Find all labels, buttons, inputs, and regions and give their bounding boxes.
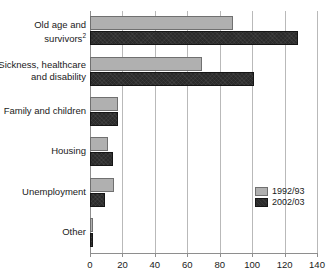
- gridline-120: [285, 11, 286, 253]
- bar-1992-93-0: [90, 16, 233, 30]
- bar-2002-03-4: [90, 193, 105, 207]
- legend-swatch-icon-2002-03: [255, 198, 268, 207]
- tickmark-0: [90, 253, 91, 257]
- legend: 1992/93 2002/03: [255, 186, 305, 208]
- tickmark-60: [187, 253, 188, 257]
- x-tick-label-120: 120: [270, 259, 300, 270]
- category-label-0: Old age and survivors2: [0, 19, 86, 45]
- bar-2002-03-5: [90, 233, 93, 247]
- gridline-100: [252, 11, 253, 253]
- gridline-20: [122, 11, 123, 253]
- legend-item-2002-03: 2002/03: [255, 197, 305, 208]
- gridline-140: [317, 11, 318, 253]
- tickmark-100: [252, 253, 253, 257]
- x-tick-label-20: 20: [107, 259, 137, 270]
- x-tick-label-0: 0: [75, 259, 105, 270]
- tickmark-140: [317, 253, 318, 257]
- category-label-5: Other: [0, 226, 86, 238]
- legend-swatch-icon-1992-93: [255, 187, 268, 196]
- bar-1992-93-5: [90, 218, 93, 232]
- x-tick-label-140: 140: [302, 259, 329, 270]
- category-label-3: Housing: [0, 145, 86, 157]
- gridline-80: [220, 11, 221, 253]
- tickmark-20: [122, 253, 123, 257]
- x-tick-label-100: 100: [237, 259, 267, 270]
- gridline-0: [90, 11, 91, 253]
- category-label-4: Unemployment: [0, 186, 86, 198]
- footnote-marker: 2: [82, 32, 86, 39]
- bar-2002-03-0: [90, 31, 298, 45]
- bar-2002-03-3: [90, 152, 113, 166]
- tickmark-40: [155, 253, 156, 257]
- bar-2002-03-2: [90, 112, 118, 126]
- category-label-2: Family and children: [0, 105, 86, 117]
- tickmark-80: [220, 253, 221, 257]
- gridline-40: [155, 11, 156, 253]
- legend-label-2002-03: 2002/03: [272, 197, 305, 208]
- bar-1992-93-2: [90, 97, 118, 111]
- bar-2002-03-1: [90, 72, 254, 86]
- category-label-1: Sickness, healthcare and disability: [0, 59, 86, 82]
- bar-1992-93-3: [90, 137, 108, 151]
- bar-1992-93-1: [90, 57, 202, 71]
- bar-chart: 020406080100120140 Old age and survivors…: [0, 0, 329, 279]
- plot-area: [90, 11, 317, 253]
- legend-label-1992-93: 1992/93: [272, 186, 305, 197]
- x-tick-label-40: 40: [140, 259, 170, 270]
- x-tick-label-80: 80: [205, 259, 235, 270]
- tickmark-120: [285, 253, 286, 257]
- legend-item-1992-93: 1992/93: [255, 186, 305, 197]
- bar-1992-93-4: [90, 178, 114, 192]
- gridline-60: [187, 11, 188, 253]
- x-tick-label-60: 60: [172, 259, 202, 270]
